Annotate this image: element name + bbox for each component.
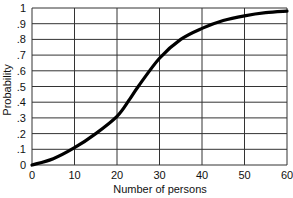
x-tick-label: 60	[281, 169, 293, 181]
x-axis-ticks: 0102030405060	[29, 169, 293, 181]
y-tick-label: 0	[20, 159, 26, 171]
y-tick-label: .9	[17, 18, 26, 30]
y-axis-ticks: 0.1.2.3.4.5.6.7.8.91	[17, 2, 26, 171]
y-tick-label: .1	[17, 143, 26, 155]
x-tick-label: 0	[29, 169, 35, 181]
grid	[32, 8, 287, 165]
x-axis-label: Number of persons	[113, 183, 207, 195]
y-tick-label: .8	[17, 33, 26, 45]
x-tick-label: 30	[153, 169, 165, 181]
y-tick-label: .6	[17, 65, 26, 77]
x-tick-label: 50	[238, 169, 250, 181]
chart: 0.1.2.3.4.5.6.7.8.91 0102030405060 Numbe…	[0, 0, 293, 198]
x-tick-label: 40	[196, 169, 208, 181]
y-tick-label: .7	[17, 49, 26, 61]
y-tick-label: .4	[17, 96, 26, 108]
y-tick-label: .3	[17, 112, 26, 124]
x-tick-label: 10	[68, 169, 80, 181]
x-tick-label: 20	[111, 169, 123, 181]
y-tick-label: .2	[17, 128, 26, 140]
y-tick-label: 1	[20, 2, 26, 14]
y-tick-label: .5	[17, 81, 26, 93]
y-axis-label: Probability	[1, 64, 13, 116]
